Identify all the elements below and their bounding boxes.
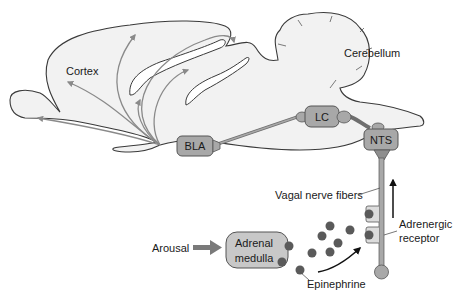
adrenal-label-line1: Adrenal	[235, 237, 273, 249]
label-epinephrine: Epinephrine	[307, 278, 366, 290]
label-adrenergic-line1: Adrenergic	[399, 218, 453, 230]
label-cerebellum: Cerebellum	[344, 47, 400, 59]
node-nts-label: NTS	[370, 134, 392, 146]
node-lc-label: LC	[315, 111, 329, 123]
label-arousal: Arousal	[152, 242, 189, 254]
label-vagal-nerve-fibers: Vagal nerve fibers	[275, 189, 363, 201]
epinephrine-flow-arrow	[318, 248, 360, 272]
brain-outline	[10, 13, 424, 152]
label-adrenergic-line2: receptor	[399, 232, 440, 244]
node-bla-label: BLA	[185, 140, 206, 152]
adrenal-medulla[interactable]: Adrenal medulla	[226, 232, 294, 268]
adrenergic-receptors	[365, 206, 380, 243]
leader-adrenergic	[384, 231, 397, 235]
diagram-canvas: BLA LC NTS Vagal nerve fibers Adrenergic…	[0, 0, 454, 291]
arousal-arrow	[193, 240, 222, 255]
epinephrine-molecules	[296, 222, 355, 275]
node-nts[interactable]: NTS	[364, 123, 398, 160]
label-cortex: Cortex	[66, 65, 99, 77]
adrenal-label-line2: medulla	[235, 252, 274, 264]
